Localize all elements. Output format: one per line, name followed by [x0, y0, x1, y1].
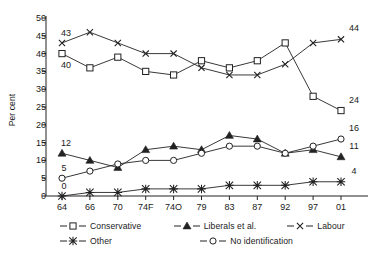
series-marker	[225, 131, 233, 138]
y-tick-label: 50	[36, 14, 46, 23]
legend-marker-wrap	[200, 235, 226, 247]
legend-symbol	[210, 237, 216, 243]
series-marker	[197, 185, 206, 194]
chart-legend: ConservativeLiberals et al.Labour OtherN…	[60, 218, 370, 248]
series-marker	[59, 40, 65, 46]
right-label-labour: 44	[349, 23, 359, 33]
y-axis-tick-labels: 05101520253035404550	[18, 0, 46, 260]
series-marker	[114, 188, 123, 197]
x-tick-label: 66	[85, 202, 95, 212]
legend-row-1: ConservativeLiberals et al.Labour	[60, 218, 370, 233]
legend-marker-filled-triangle	[174, 220, 200, 232]
legend-marker-wrap	[60, 235, 86, 247]
y-tick-label: 15	[36, 138, 46, 147]
series-marker	[171, 157, 177, 163]
legend-marker-asterisk	[60, 235, 86, 247]
legend-symbol	[297, 222, 303, 228]
left-label-liberals: 12	[61, 138, 71, 148]
legend-symbol	[183, 222, 191, 229]
y-tick-label: 25	[36, 103, 46, 112]
left-label-conservative: 40	[61, 60, 71, 70]
legend-item-no-identification[interactable]: No identification	[200, 235, 370, 247]
y-tick-label: 0	[41, 192, 46, 201]
series-marker	[198, 150, 204, 156]
x-tick-label: 01	[336, 202, 346, 212]
series-marker	[281, 181, 290, 190]
series-marker	[143, 68, 149, 74]
series-marker	[58, 192, 67, 201]
legend-marker-open-square	[60, 220, 86, 232]
x-tick-label: 79	[196, 202, 206, 212]
series-marker	[171, 72, 177, 78]
legend-label: Liberals et al.	[204, 221, 257, 231]
legend-symbol	[69, 236, 78, 245]
x-tick-label: 87	[252, 202, 262, 212]
x-tick-label: 92	[280, 202, 290, 212]
legend-label: Labour	[317, 221, 344, 231]
x-tick-label: 97	[308, 202, 318, 212]
series-marker	[225, 181, 234, 190]
series-marker	[59, 51, 65, 57]
series-marker	[337, 178, 346, 187]
series-marker	[170, 142, 178, 149]
legend-label: Other	[90, 236, 112, 246]
legend-item-labour[interactable]: Labour	[287, 220, 370, 232]
right-label-liberals: 11	[349, 141, 358, 151]
series-marker	[86, 188, 95, 197]
series-marker	[338, 107, 344, 113]
legend-marker-wrap	[287, 220, 313, 232]
y-tick-label: 45	[36, 31, 46, 40]
series-marker	[115, 40, 121, 46]
series-marker	[87, 168, 93, 174]
series-line	[62, 139, 341, 178]
legend-item-conservative[interactable]: Conservative	[60, 220, 174, 232]
legend-symbol	[70, 222, 76, 228]
series-marker	[338, 136, 344, 142]
y-tick-label: 35	[36, 67, 46, 76]
series-marker	[169, 185, 178, 194]
series-marker	[310, 143, 316, 149]
line-chart: Per cent 05101520253035404550 64667074F7…	[0, 0, 378, 260]
series-marker	[253, 181, 262, 190]
series-marker	[282, 40, 288, 46]
legend-marker-wrap	[174, 220, 200, 232]
legend-item-other[interactable]: Other	[60, 235, 200, 247]
series-marker	[282, 150, 288, 156]
series-marker	[87, 65, 93, 71]
series-marker	[282, 61, 288, 67]
series-marker	[58, 149, 66, 156]
x-tick-label: 64	[57, 202, 67, 212]
series-marker	[254, 143, 260, 149]
legend-label: No identification	[230, 236, 293, 246]
legend-marker-cross-x	[287, 220, 313, 232]
legend-item-liberals-et-al[interactable]: Liberals et al.	[174, 220, 288, 232]
y-tick-label: 30	[36, 85, 46, 94]
y-axis-title: Per cent	[7, 80, 17, 140]
series-marker	[198, 65, 204, 71]
legend-marker-wrap	[60, 220, 86, 232]
left-label-labour: 43	[61, 28, 71, 38]
series-marker	[226, 143, 232, 149]
x-tick-label: 74F	[138, 202, 154, 212]
right-label-conservative: 24	[349, 95, 359, 105]
left-label-other: 0	[61, 181, 66, 191]
series-marker	[115, 161, 121, 167]
series-marker	[310, 93, 316, 99]
legend-marker-open-circle	[200, 235, 226, 247]
y-tick-label: 10	[36, 156, 46, 165]
series-labour	[59, 29, 344, 78]
y-tick-label: 5	[41, 174, 46, 183]
left-label-no-identification: 5	[61, 163, 66, 173]
legend-label: Conservative	[90, 221, 141, 231]
x-tick-label: 83	[224, 202, 234, 212]
series-marker	[254, 58, 260, 64]
series-marker	[141, 185, 150, 194]
series-marker	[309, 178, 318, 187]
series-marker	[115, 54, 121, 60]
series-no-identification	[59, 136, 344, 181]
series-marker	[143, 157, 149, 163]
series-marker	[87, 29, 93, 35]
y-tick-label: 20	[36, 120, 46, 129]
y-tick-label: 40	[36, 49, 46, 58]
right-label-other: 4	[351, 166, 356, 176]
